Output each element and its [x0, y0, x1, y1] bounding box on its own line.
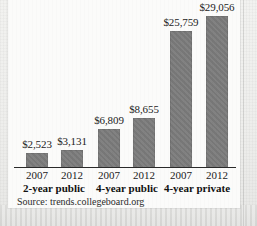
chart-figure-panel: $2,523 $3,131 $6,809 $8,655 $25,759 $29,… — [8, 0, 240, 208]
year-label: 2012 — [194, 169, 240, 181]
paper-texture-band — [0, 205, 257, 226]
plot-area: $2,523 $3,131 $6,809 $8,655 $25,759 $29,… — [8, 0, 240, 168]
bar-value-label: $6,809 — [86, 114, 132, 126]
bar-value-label: $3,131 — [49, 135, 95, 147]
bar-4year-private-2007 — [170, 31, 192, 168]
bar-value-label: $8,655 — [121, 103, 167, 115]
year-label-row: 2007 2012 2007 2012 2007 2012 — [8, 169, 240, 183]
scanned-page: $2,523 $3,131 $6,809 $8,655 $25,759 $29,… — [0, 0, 257, 226]
source-note: Source: trends.collegeboard.org — [17, 196, 144, 207]
bar-4year-public-2012 — [133, 118, 155, 168]
group-label-4year-private: 4-year private — [153, 182, 241, 194]
bar-value-label: $29,056 — [191, 1, 243, 13]
x-axis-line — [14, 167, 236, 168]
bar-4year-private-2012 — [206, 16, 228, 168]
bar-value-label: $25,759 — [155, 16, 207, 28]
bar-4year-public-2007 — [98, 129, 120, 168]
bar-2year-public-2007 — [26, 153, 48, 168]
scan-edge-rule — [243, 0, 244, 226]
group-label-row: 2-year public 4-year public 4-year priva… — [8, 182, 240, 197]
bar-2year-public-2012 — [61, 150, 83, 168]
